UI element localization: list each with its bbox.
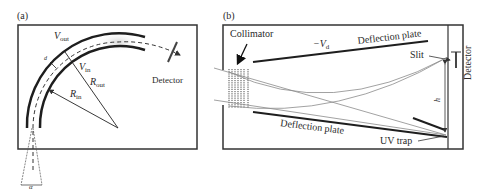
collimator-arrow: [238, 44, 247, 63]
panel-b: (b) Collimator −Vd Deflection plate Defl…: [214, 10, 473, 149]
slit-arrow: [429, 56, 450, 60]
detector-label: Detector: [152, 75, 183, 85]
angle-label: α: [29, 183, 33, 191]
uv-trap-label: UV trap: [380, 135, 412, 146]
gap-label: d: [44, 55, 48, 61]
r-in-label: Rin: [69, 88, 82, 101]
v-out-label: Vout: [54, 30, 69, 43]
ion-trajectory: [33, 42, 180, 170]
detector-label-b: Detector: [462, 45, 473, 80]
cone-right: [33, 128, 42, 185]
collimator-label: Collimator: [230, 28, 274, 39]
voltage-label: −Vd: [313, 38, 330, 51]
height-label: h: [433, 98, 442, 102]
panel-a: (a) Detector Vout Vin Rout Rin d α: [17, 10, 197, 191]
panel-a-tag: (a): [17, 10, 28, 22]
slit-label: Slit: [410, 49, 424, 60]
r-in-line: [49, 90, 118, 128]
cone-left: [21, 128, 32, 185]
r-out-label: Rout: [89, 76, 105, 89]
diagram-canvas: (a) Detector Vout Vin Rout Rin d α (b): [0, 0, 488, 192]
v-in-label: Vin: [79, 61, 91, 74]
top-deflection-plate: [253, 41, 428, 62]
detector-plate: [168, 42, 177, 62]
uv-trap-pointer: [418, 136, 444, 141]
panel-b-tag: (b): [223, 10, 235, 22]
uv-trap-plate: [413, 118, 445, 130]
